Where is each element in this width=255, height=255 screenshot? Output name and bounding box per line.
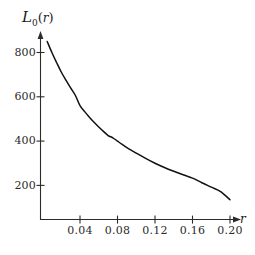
y-axis-title-close-paren: )	[49, 10, 54, 25]
y-tick-label-600: 600	[4, 90, 36, 103]
y-axis-title-symbol: L	[22, 8, 32, 26]
y-tick-label-800: 800	[4, 46, 36, 59]
plot-area	[0, 0, 255, 255]
chart-figure: L0(r) r 800 600 400 200 0.04 0.08 0.12 0…	[0, 0, 255, 255]
y-tick-label-400: 400	[4, 134, 36, 147]
x-tick-label-1: 0.08	[98, 224, 138, 237]
y-axis-title: L0(r)	[22, 8, 54, 28]
x-tick-label-2: 0.12	[135, 224, 175, 237]
x-tick-label-0: 0.04	[60, 224, 100, 237]
x-tick-label-3: 0.16	[173, 224, 213, 237]
data-curve-L0	[47, 41, 230, 199]
y-tick-label-200: 200	[4, 179, 36, 192]
x-tick-label-4: 0.20	[210, 224, 250, 237]
y-axis-arrow-icon	[38, 31, 44, 39]
